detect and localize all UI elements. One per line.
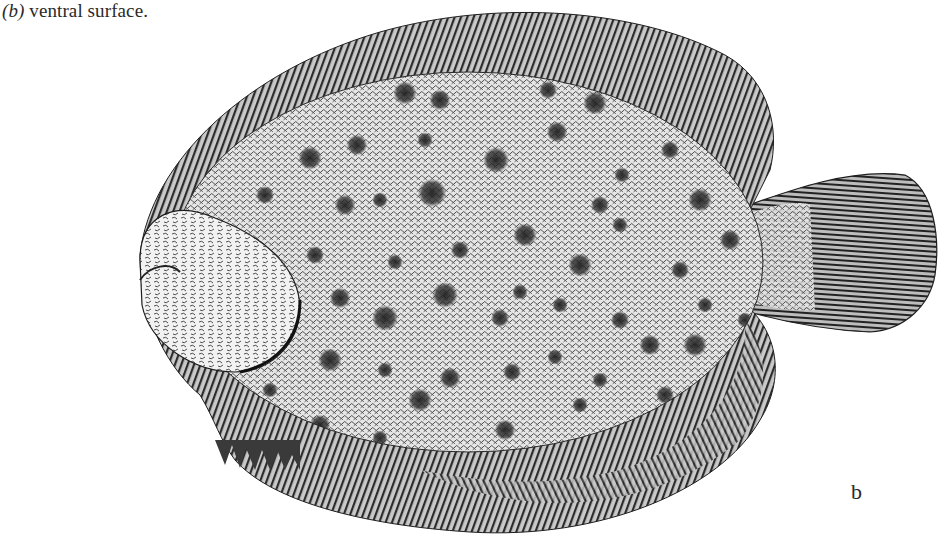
body-spot bbox=[440, 368, 461, 389]
body-spot bbox=[661, 141, 679, 159]
body-spot bbox=[611, 311, 629, 329]
body-spot bbox=[592, 372, 608, 388]
body-spot bbox=[298, 146, 321, 169]
body-spot bbox=[614, 167, 630, 183]
body-spot bbox=[568, 253, 591, 276]
body-spot bbox=[552, 297, 568, 313]
body-spot bbox=[503, 363, 521, 381]
body-spot bbox=[262, 382, 278, 398]
body-spot bbox=[430, 90, 451, 111]
body-spot bbox=[591, 196, 609, 214]
body-spot bbox=[547, 122, 568, 143]
body-spot bbox=[683, 333, 706, 356]
body-spot bbox=[387, 254, 403, 270]
body-spot bbox=[418, 179, 447, 208]
body-spot bbox=[318, 348, 341, 371]
body-spot bbox=[372, 192, 388, 208]
flatfish-illustration bbox=[0, 0, 943, 547]
body-spot bbox=[640, 335, 661, 356]
body-spot bbox=[483, 147, 509, 173]
body-spot bbox=[547, 349, 563, 365]
body-spot bbox=[671, 261, 689, 279]
panel-letter: b bbox=[851, 479, 862, 505]
body-spot bbox=[372, 305, 398, 331]
caudal-fin bbox=[735, 174, 937, 332]
body-spot bbox=[720, 230, 741, 251]
body-spot bbox=[377, 362, 393, 378]
body-spot bbox=[306, 246, 324, 264]
body-spot bbox=[432, 282, 458, 308]
body-spot bbox=[539, 81, 557, 99]
body-spot bbox=[408, 388, 431, 411]
body-spot bbox=[697, 297, 713, 313]
body-spot bbox=[330, 288, 351, 309]
body-spot bbox=[572, 397, 588, 413]
body-spot bbox=[417, 132, 433, 148]
body-spot bbox=[512, 284, 528, 300]
body-spot bbox=[256, 186, 274, 204]
body-spot bbox=[612, 217, 628, 233]
body-spot bbox=[451, 241, 469, 259]
body-spot bbox=[583, 91, 606, 114]
body-spot bbox=[347, 135, 368, 156]
body-spot bbox=[513, 223, 536, 246]
body-spot bbox=[688, 188, 711, 211]
body-spot bbox=[335, 195, 356, 216]
body-spot bbox=[491, 309, 509, 327]
body-spot bbox=[495, 420, 516, 441]
body-spot bbox=[393, 81, 416, 104]
